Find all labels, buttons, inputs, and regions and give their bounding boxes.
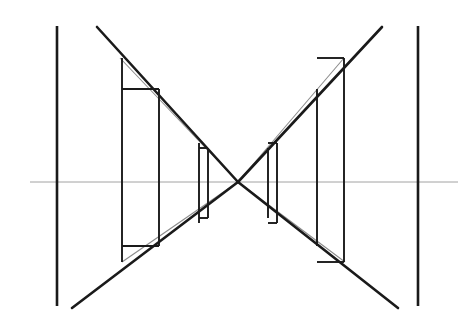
line-drawing-svg — [0, 0, 475, 328]
canvas-background — [0, 0, 475, 328]
figure-canvas — [0, 0, 475, 328]
